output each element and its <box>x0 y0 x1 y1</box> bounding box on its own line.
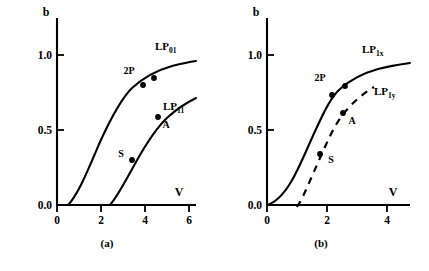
curve-label-lp1y: LP1y <box>374 85 396 100</box>
y-tick-label-a-2: 1.0 <box>38 49 53 61</box>
y-axis-label-a: b <box>43 5 50 19</box>
x-axis-label-b: V <box>389 185 398 199</box>
marker-a-a <box>155 114 161 120</box>
x-tick-label-a-2: 4 <box>142 214 148 226</box>
x-tick-label-b-2: 4 <box>384 214 390 226</box>
x-axis-label-a: V <box>175 185 184 199</box>
y-axis-label-b: b <box>253 5 260 19</box>
marker-a-b <box>340 110 346 116</box>
x-tick-label-a-1: 2 <box>98 214 104 226</box>
marker-2p-b-1 <box>329 92 335 98</box>
point-label-2p-b: 2P <box>314 72 325 83</box>
x-tick-label-b-1: 2 <box>324 214 330 226</box>
point-label-s-a: S <box>118 148 124 159</box>
marker-2p-a-1 <box>140 82 146 88</box>
y-tick-label-b-1: 0.5 <box>248 124 263 136</box>
marker-s-a <box>129 157 135 163</box>
point-label-a-a: A <box>162 119 170 130</box>
curve-label-lp1x: LP1x <box>362 43 384 58</box>
x-tick-label-a-0: 0 <box>54 214 60 226</box>
y-tick-label-b-2: 1.0 <box>248 49 263 61</box>
panel-b: 0.0 0.5 1.0 0 2 4 b V 2P S A LP1x <box>214 0 428 271</box>
panel-caption-a: (a) <box>0 237 214 249</box>
panel-a: 0.0 0.5 1.0 0 2 4 6 b V 2P S A <box>0 0 214 271</box>
figure-container: 0.0 0.5 1.0 0 2 4 6 b V 2P S A <box>0 0 429 271</box>
marker-s-b <box>317 151 323 157</box>
point-label-a-b: A <box>348 115 356 126</box>
curve-lp1x <box>267 63 410 205</box>
curve-label-lp01: LP01 <box>155 40 177 55</box>
point-label-s-b: S <box>328 154 334 165</box>
curve-lp01 <box>68 61 196 205</box>
marker-2p-a-2 <box>151 75 157 81</box>
panel-caption-b: (b) <box>214 237 428 249</box>
y-tick-label-b-0: 0.0 <box>248 199 263 211</box>
y-tick-label-a-0: 0.0 <box>38 199 53 211</box>
panel-a-plot: 0.0 0.5 1.0 0 2 4 6 b V 2P S A <box>0 0 214 248</box>
panel-b-plot: 0.0 0.5 1.0 0 2 4 b V 2P S A LP1x <box>214 0 428 248</box>
x-tick-label-b-0: 0 <box>264 214 270 226</box>
x-tick-label-a-3: 6 <box>186 214 192 226</box>
y-tick-label-a-1: 0.5 <box>38 124 53 136</box>
point-label-2p-a: 2P <box>123 65 134 76</box>
marker-2p-b-2 <box>342 83 348 89</box>
